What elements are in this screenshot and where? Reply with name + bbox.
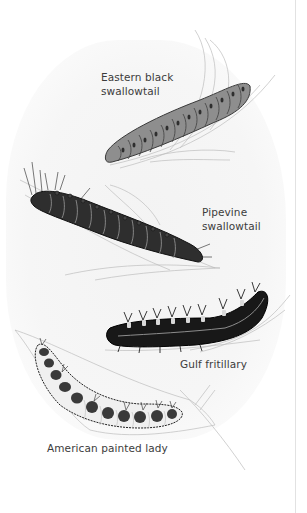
eastern-black-swallowtail-drawing <box>105 30 275 168</box>
label-line: swallowtail <box>202 219 261 233</box>
label-gulf-fritillary: Gulf fritillary <box>180 357 247 371</box>
label-line: swallowtail <box>101 84 173 98</box>
illustration-page: Eastern black swallowtail Pipevine swall… <box>0 0 307 513</box>
label-line: Gulf fritillary <box>180 357 247 371</box>
label-eastern-black-swallowtail: Eastern black swallowtail <box>101 70 173 98</box>
label-line: Eastern black <box>101 70 173 84</box>
label-line: Pipevine <box>202 205 261 219</box>
label-pipevine-swallowtail: Pipevine swallowtail <box>202 205 261 233</box>
label-line: American painted lady <box>47 441 168 455</box>
pipevine-swallowtail-drawing <box>20 162 220 280</box>
label-american-painted-lady: American painted lady <box>47 441 168 455</box>
gulf-fritillary-drawing <box>105 282 290 353</box>
